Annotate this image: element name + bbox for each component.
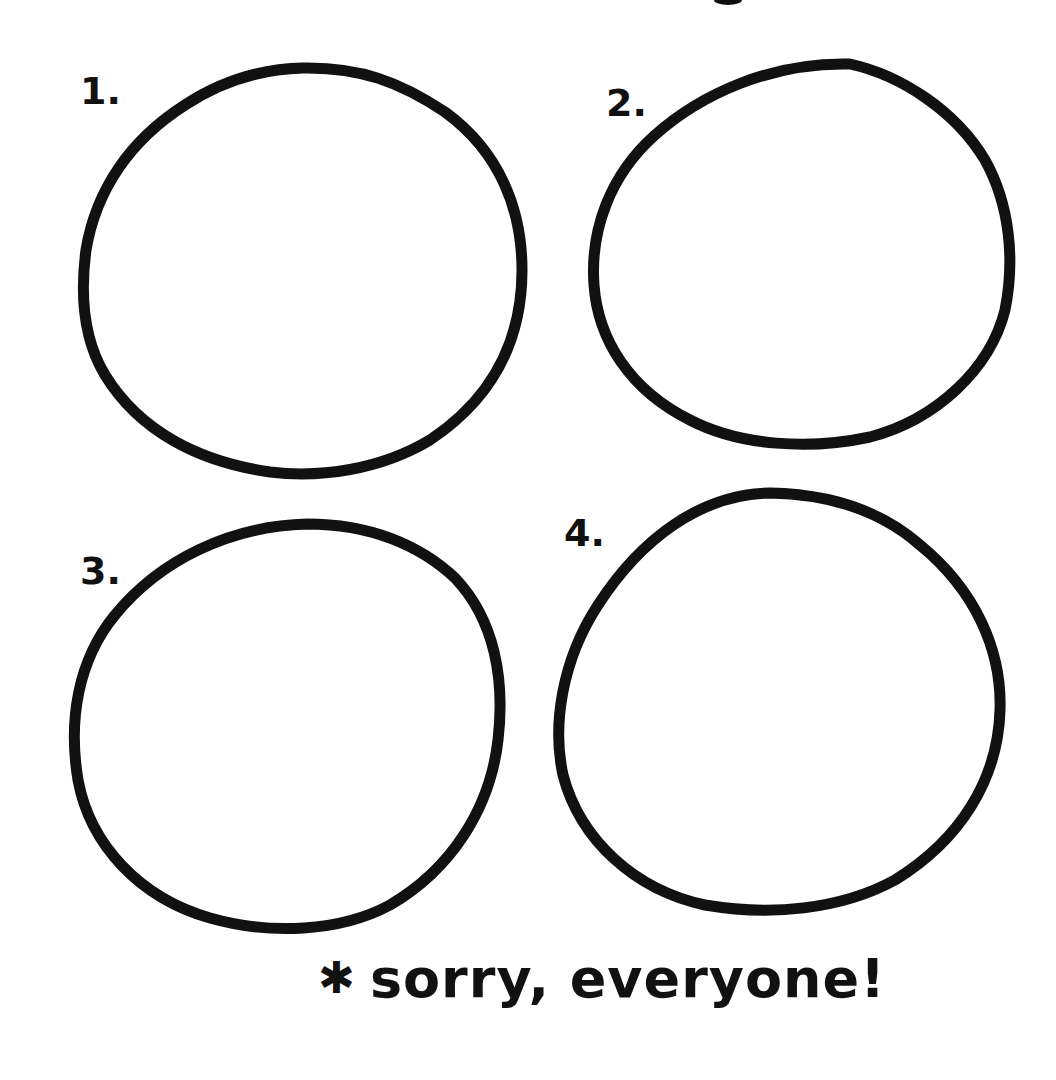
footer-note: ✱sorry, everyone! bbox=[318, 952, 886, 1006]
ink-fragment bbox=[714, 0, 742, 5]
circles-layer bbox=[0, 0, 1056, 1080]
circle-4-label: 4. bbox=[564, 514, 605, 552]
circle-3 bbox=[74, 524, 500, 929]
circle-2 bbox=[594, 64, 1010, 444]
circle-2-label: 2. bbox=[606, 84, 647, 122]
footer-text: sorry, everyone! bbox=[370, 947, 886, 1010]
circle-4 bbox=[559, 493, 1000, 910]
circle-1-label: 1. bbox=[80, 72, 121, 110]
circle-3-label: 3. bbox=[80, 552, 121, 590]
asterisk-icon: ✱ bbox=[318, 952, 356, 1003]
drawing-canvas: 1. 2. 3. 4. ✱sorry, everyone! bbox=[0, 0, 1056, 1080]
circle-1 bbox=[83, 68, 522, 474]
